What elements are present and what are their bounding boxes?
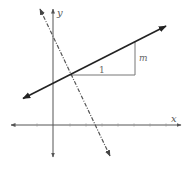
x-axis-label: x: [171, 113, 177, 124]
run-label: 1: [99, 65, 105, 75]
y-axis-label: y: [56, 7, 63, 18]
rise-label: m: [139, 53, 148, 63]
dashed-line: [40, 9, 110, 156]
x-axis: x: [11, 113, 181, 127]
slope-diagram: x y 1 m: [0, 0, 191, 172]
slope-triangle: 1 m: [70, 42, 148, 75]
